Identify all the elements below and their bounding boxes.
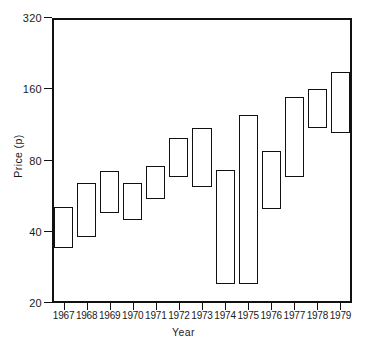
- x-tick-1967: [64, 303, 65, 310]
- y-tick-20: [44, 302, 52, 303]
- y-axis-title: Price (p): [12, 116, 24, 196]
- range-bar-1975: [239, 115, 258, 284]
- y-tick-80: [44, 160, 52, 161]
- range-bar-1969: [100, 171, 119, 213]
- x-tick-1974: [225, 303, 226, 310]
- x-tick-1972: [179, 303, 180, 310]
- x-tick-1976: [271, 303, 272, 310]
- x-tick-label-1979: 1979: [326, 310, 354, 321]
- x-tick-1977: [294, 303, 295, 310]
- price-range-chart: 204080160320 Price (p) 19671968196919701…: [0, 0, 367, 348]
- y-tick-label-wrap: 40: [0, 226, 42, 238]
- range-bar-1978: [308, 89, 327, 128]
- range-bar-1979: [331, 72, 350, 133]
- x-tick-1969: [110, 303, 111, 310]
- x-tick-1979: [340, 303, 341, 310]
- y-tick-label: 160: [23, 83, 42, 95]
- range-bar-1974: [216, 170, 235, 284]
- y-tick-160: [44, 88, 52, 89]
- y-tick-label-wrap: 20: [0, 297, 42, 309]
- y-tick-label: 80: [29, 155, 42, 167]
- range-bar-1970: [123, 183, 142, 219]
- x-tick-1973: [202, 303, 203, 310]
- range-bar-1977: [285, 97, 304, 177]
- y-tick-label: 40: [29, 226, 42, 238]
- range-bar-1968: [77, 183, 96, 237]
- y-tick-320: [44, 17, 52, 18]
- range-bar-1972: [169, 138, 188, 178]
- x-tick-1971: [156, 303, 157, 310]
- y-tick-label-wrap: 160: [0, 83, 42, 95]
- y-tick-label-wrap: 320: [0, 12, 42, 24]
- x-tick-1978: [317, 303, 318, 310]
- range-bar-1967: [54, 207, 73, 249]
- y-tick-label: 320: [23, 12, 42, 24]
- y-tick-40: [44, 231, 52, 232]
- x-tick-1968: [87, 303, 88, 310]
- y-tick-label: 20: [29, 297, 42, 309]
- range-bar-1971: [146, 166, 165, 199]
- x-tick-1970: [133, 303, 134, 310]
- range-bar-1976: [262, 151, 281, 209]
- x-axis-title: Year: [0, 326, 367, 338]
- x-tick-1975: [248, 303, 249, 310]
- range-bar-1973: [192, 128, 211, 187]
